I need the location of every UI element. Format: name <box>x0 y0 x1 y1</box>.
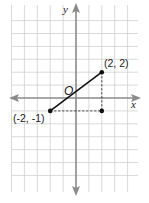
plotted-point <box>100 109 105 114</box>
coordinate-plane: y x O (2, 2) (-2, -1) <box>0 0 149 203</box>
x-axis-label: x <box>130 98 136 110</box>
point-label-2-2: (2, 2) <box>104 57 129 69</box>
axes <box>9 3 141 196</box>
plotted-point <box>48 109 53 114</box>
plotted-point <box>100 70 105 75</box>
origin-label: O <box>64 84 73 98</box>
point-label-neg2-neg1: (-2, -1) <box>13 112 45 124</box>
y-axis-label: y <box>62 3 68 15</box>
